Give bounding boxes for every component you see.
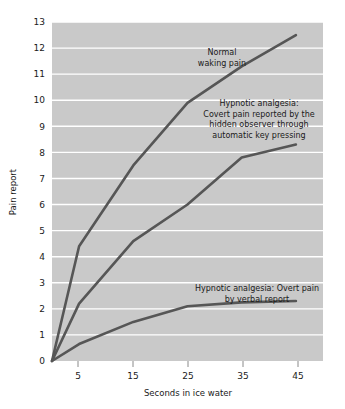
y-tick-6: 6 bbox=[39, 200, 45, 210]
y-tick-12: 12 bbox=[34, 43, 45, 53]
x-axis-title: Seconds in ice water bbox=[144, 388, 233, 398]
annotation-covert-line-2: Covert pain reported by the bbox=[203, 110, 314, 119]
y-tick-10: 10 bbox=[34, 95, 46, 105]
annotation-normal-line-2: waking pain bbox=[198, 59, 246, 68]
y-axis-title: Pain report bbox=[8, 168, 18, 215]
annotation-overt-line-1: Hypnotic analgesia: Overt pain bbox=[195, 284, 319, 293]
x-tick-15: 15 bbox=[127, 371, 138, 381]
annotation-covert-line-1: Hypnotic analgesia: bbox=[219, 99, 298, 108]
plot-area-background bbox=[52, 22, 323, 361]
y-tick-8: 8 bbox=[39, 148, 45, 158]
y-tick-0: 0 bbox=[39, 356, 45, 366]
y-tick-2: 2 bbox=[39, 304, 45, 314]
annotation-covert-pain: Hypnotic analgesia: Covert pain reported… bbox=[203, 99, 314, 140]
y-tick-3: 3 bbox=[39, 278, 45, 288]
annotation-covert-line-4: automatic key pressing bbox=[212, 131, 305, 140]
y-axis-ticks: 13 12 11 10 9 8 7 6 5 4 3 2 1 0 bbox=[34, 17, 46, 366]
y-tick-9: 9 bbox=[39, 122, 45, 132]
y-tick-4: 4 bbox=[39, 252, 45, 262]
x-axis-ticks: 5 15 25 35 45 bbox=[75, 371, 304, 381]
annotation-overt-line-2: by verbal report bbox=[225, 295, 289, 304]
x-axis-tickmarks bbox=[78, 361, 298, 367]
y-tick-11: 11 bbox=[34, 69, 45, 79]
annotation-covert-line-3: hidden observer through bbox=[209, 120, 308, 129]
x-tick-25: 25 bbox=[182, 371, 193, 381]
y-tick-13: 13 bbox=[34, 17, 45, 27]
y-tick-7: 7 bbox=[39, 174, 45, 184]
x-tick-35: 35 bbox=[237, 371, 248, 381]
y-tick-5: 5 bbox=[39, 226, 45, 236]
annotation-normal-line-1: Normal bbox=[208, 48, 237, 57]
y-tick-1: 1 bbox=[39, 330, 45, 340]
x-tick-45: 45 bbox=[292, 371, 303, 381]
pain-report-line-chart: 13 12 11 10 9 8 7 6 5 4 3 2 1 0 5 15 25 … bbox=[0, 0, 345, 409]
x-tick-5: 5 bbox=[75, 371, 81, 381]
